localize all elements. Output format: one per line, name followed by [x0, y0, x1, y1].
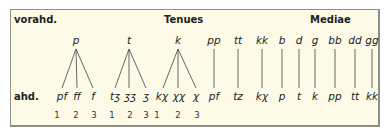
number-p-2: 2 [73, 110, 78, 120]
header-vorahd: vorahd. [14, 14, 57, 25]
source-bb: bb [328, 34, 341, 46]
outcome-xx: χχ [173, 90, 185, 102]
source-t: t [127, 34, 131, 46]
outcome-tz-affricate: tʒ [110, 90, 120, 102]
outcome-tt: tt [351, 90, 359, 102]
outcome-f: f [91, 90, 95, 102]
source-dd: dd [348, 34, 361, 46]
outcome-ff: ff [73, 90, 81, 102]
outcome-pf: pf [57, 90, 67, 102]
outcome-t: t [297, 90, 301, 102]
source-g: g [312, 34, 319, 46]
number-t-2: 2 [127, 110, 132, 120]
source-p: p [73, 34, 80, 46]
source-b: b [279, 34, 286, 46]
source-tt: tt [234, 34, 242, 46]
outcome-tz: tz [233, 90, 243, 102]
outcome-kk: kk [366, 90, 378, 102]
header-mediae: Mediae [310, 14, 351, 25]
outcome-k: k [312, 90, 318, 102]
source-pp: pp [207, 34, 220, 46]
outcome-p: p [279, 90, 286, 102]
source-gg: gg [365, 34, 378, 46]
outcome-pp: pp [328, 90, 341, 102]
outcome-z: ʒ [143, 90, 149, 102]
header-tenues: Tenues [164, 14, 203, 25]
number-t-3: 3 [143, 110, 148, 120]
source-kk: kk [256, 34, 268, 46]
number-k-3: 3 [194, 110, 199, 120]
outcome-kx-gem: kχ [256, 90, 268, 102]
number-k-2: 2 [175, 110, 180, 120]
number-k-1: 1 [154, 110, 159, 120]
outcome-kx: kχ [156, 90, 168, 102]
source-k: k [175, 34, 181, 46]
outcome-x: χ [193, 90, 199, 102]
header-ahd: ahd. [14, 91, 39, 102]
source-d: d [296, 34, 303, 46]
outcome-pf-gem: pf [209, 90, 219, 102]
number-p-3: 3 [91, 110, 96, 120]
outcome-zz: ʒʒ [124, 90, 136, 102]
number-t-1: 1 [109, 110, 114, 120]
number-p-1: 1 [54, 110, 59, 120]
